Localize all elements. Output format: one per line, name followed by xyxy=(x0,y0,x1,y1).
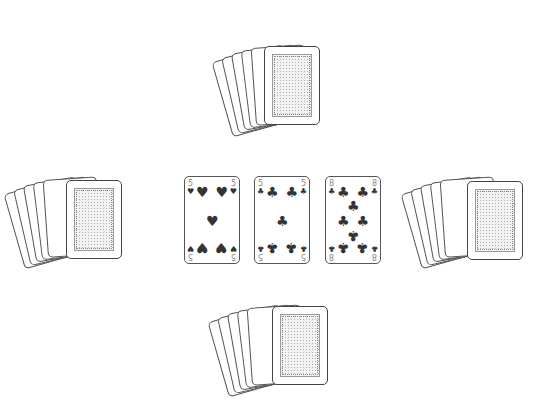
heart-icon: ♥ xyxy=(187,188,194,196)
club-icon: ♣ xyxy=(276,214,289,228)
heart-icon: ♥ xyxy=(215,185,228,199)
club-icon: ♣ xyxy=(257,188,264,196)
player-left-hand xyxy=(20,172,130,272)
card-rank: 5 xyxy=(188,252,193,260)
played-card-5-clubs: 5 ♣ 5 ♣ ♣ ♣ ♣ ♣ ♣ ♣ 5 ♣ 5 xyxy=(254,176,310,264)
club-icon: ♣ xyxy=(328,188,335,196)
club-icon: ♣ xyxy=(371,244,378,252)
card-back-pattern xyxy=(74,188,114,251)
card-back-pattern xyxy=(272,54,312,117)
club-icon: ♣ xyxy=(328,244,335,252)
card-back-front[interactable] xyxy=(272,306,328,385)
club-icon: ♣ xyxy=(300,244,307,252)
club-icon: ♣ xyxy=(356,185,369,199)
card-back-front xyxy=(264,46,320,125)
heart-icon: ♥ xyxy=(230,244,237,252)
club-icon: ♣ xyxy=(285,241,298,255)
club-icon: ♣ xyxy=(257,244,264,252)
player-right-hand xyxy=(415,172,525,272)
club-icon: ♣ xyxy=(266,185,279,199)
club-icon: ♣ xyxy=(347,199,360,213)
card-rank: 8 xyxy=(329,252,334,260)
card-back-pattern xyxy=(475,189,515,252)
played-card-5-hearts: 5 ♥ 5 ♥ ♥ ♥ ♥ ♥ ♥ ♥ 5 ♥ 5 xyxy=(184,176,240,264)
card-rank: 8 xyxy=(372,252,377,260)
heart-icon: ♥ xyxy=(196,185,209,199)
heart-icon: ♥ xyxy=(230,188,237,196)
club-icon: ♣ xyxy=(337,241,350,255)
club-icon: ♣ xyxy=(356,214,369,228)
heart-icon: ♥ xyxy=(215,241,228,255)
club-icon: ♣ xyxy=(285,185,298,199)
club-icon: ♣ xyxy=(371,188,378,196)
card-back-front xyxy=(66,180,122,259)
card-rank: 5 xyxy=(301,252,306,260)
heart-icon: ♥ xyxy=(187,244,194,252)
club-icon: ♣ xyxy=(337,185,350,199)
club-icon: ♣ xyxy=(337,214,350,228)
card-back-front xyxy=(467,181,523,260)
card-rank: 5 xyxy=(231,252,236,260)
club-icon: ♣ xyxy=(266,241,279,255)
played-card-8-clubs: 8 ♣ 8 ♣ ♣ ♣ ♣ ♣ ♣ ♣ ♣ ♣ ♣ 8 ♣ 8 xyxy=(325,176,381,264)
card-back-pattern xyxy=(280,314,320,377)
heart-icon: ♥ xyxy=(206,214,219,228)
club-icon: ♣ xyxy=(300,188,307,196)
club-icon: ♣ xyxy=(356,241,369,255)
player-bottom-hand[interactable] xyxy=(222,300,332,400)
player-top-hand xyxy=(218,40,328,140)
card-rank: 5 xyxy=(258,252,263,260)
heart-icon: ♥ xyxy=(196,241,209,255)
